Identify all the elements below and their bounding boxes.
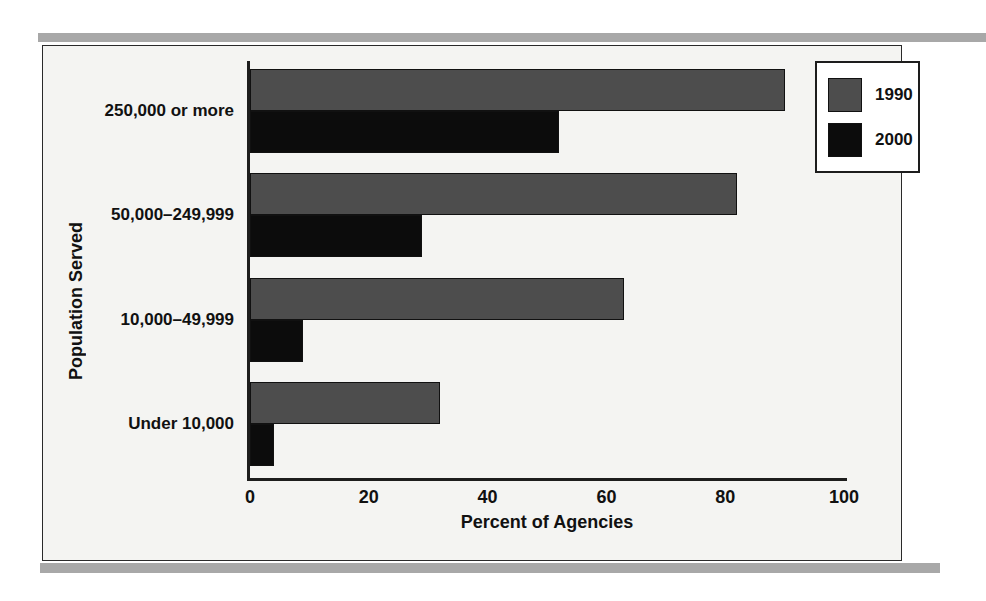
bar-2000-2	[250, 215, 422, 257]
bar-group: Under 10,000	[250, 382, 844, 466]
bar-1990-1	[250, 69, 785, 111]
category-label: 250,000 or more	[105, 101, 234, 121]
bar-2000-1	[250, 111, 559, 153]
bar-group: 250,000 or more	[250, 69, 844, 153]
category-label: Under 10,000	[128, 414, 234, 434]
x-axis-line	[247, 478, 847, 481]
x-tick-label: 0	[245, 487, 255, 508]
bar-1990-3	[250, 278, 624, 320]
bar-2000-4	[250, 424, 274, 466]
legend-item-2000: 2000	[828, 117, 918, 162]
legend-item-1990: 1990	[828, 72, 918, 117]
x-tick-label: 80	[715, 487, 735, 508]
x-tick-label: 100	[829, 487, 859, 508]
decorative-band-bottom	[40, 563, 940, 573]
x-axis-title: Percent of Agencies	[250, 512, 844, 533]
x-tick-label: 60	[596, 487, 616, 508]
category-label: 10,000–49,999	[121, 310, 234, 330]
y-axis-title: Population Served	[63, 91, 89, 511]
legend-swatch-2000	[828, 123, 862, 157]
legend-label-1990: 1990	[875, 85, 913, 105]
x-tick-label: 40	[478, 487, 498, 508]
figure-stage: Population Served 250,000 or more50,000–…	[0, 0, 986, 601]
bar-1990-4	[250, 382, 440, 424]
category-label: 50,000–249,999	[111, 205, 234, 225]
bar-2000-3	[250, 320, 303, 362]
x-tick-label: 20	[359, 487, 379, 508]
bar-1990-2	[250, 173, 737, 215]
bar-group: 10,000–49,999	[250, 278, 844, 362]
bar-group: 50,000–249,999	[250, 173, 844, 257]
chart-panel: Population Served 250,000 or more50,000–…	[42, 45, 902, 561]
chart-legend: 1990 2000	[815, 61, 920, 173]
legend-swatch-1990	[828, 78, 862, 112]
decorative-band-top	[38, 33, 986, 42]
legend-label-2000: 2000	[875, 130, 913, 150]
plot-area: 250,000 or more50,000–249,99910,000–49,9…	[250, 61, 844, 478]
